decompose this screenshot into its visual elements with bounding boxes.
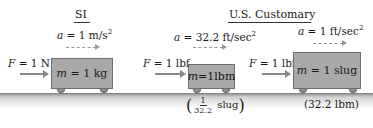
mass-label-lbm: m=1lbm [188,70,236,83]
accel-label-si: a = 1 m/s2 [57,29,112,41]
header-si-underline [74,22,90,23]
force-label-si: F = 1 N [8,57,50,69]
force-arrow-icon [155,73,185,75]
force-arrow-icon [262,73,290,75]
accel-label-slug: a = 1 ft/sec2 [298,25,363,37]
accel-arrow-icon [313,43,343,45]
force-label-lbm: F = 1 lbf [143,57,190,69]
equiv-mass-slug: (32.2 lbm) [304,98,359,110]
mass-label-si: m = 1 kg [57,67,108,80]
force-label-slug: F = 1 lbf [249,57,296,69]
force-arrow-icon [20,73,48,75]
header-si: SI [75,9,87,21]
accel-arrow-icon [66,47,96,49]
accel-arrow-icon [193,47,223,49]
mass-block-slug: m = 1 slug [293,52,361,89]
equiv-mass-lbm: (132.2 slug) [186,96,245,115]
header-us-underline [228,22,311,23]
accel-label-lbm: a = 32.2 ft/sec2 [174,31,256,43]
header-us-customary: U.S. Customary [229,9,316,21]
units-diagram: SI U.S. Customary a = 1 m/s2 F = 1 N m =… [0,0,373,128]
mass-block-si: m = 1 kg [51,58,113,89]
mass-block-lbm: m=1lbm [188,64,235,89]
mass-label-slug: m = 1 slug [297,64,357,77]
